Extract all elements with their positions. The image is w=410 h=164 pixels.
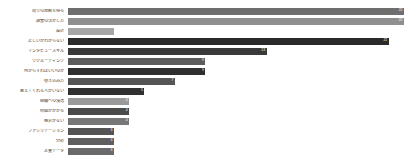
- bar-value-label: 5: [141, 89, 143, 92]
- bar-value-label: 7: [172, 79, 174, 82]
- chart-row: 教えてくれる人がいない5: [0, 86, 404, 96]
- bar[interactable]: 4: [68, 118, 129, 125]
- bar-value-label: 4: [126, 119, 128, 122]
- category-label: 時間がかかる: [0, 109, 68, 114]
- bar[interactable]: [68, 28, 114, 35]
- bar[interactable]: 3: [68, 138, 114, 145]
- chart-row: 組織への浸透4: [0, 96, 404, 106]
- bar-track: 4: [68, 116, 404, 126]
- horizontal-bar-chart: 周りの理解を得る22調査の活かし方22設計正しいかわからない21インタビュースキ…: [0, 0, 410, 164]
- chart-row: 何からすればいいのか9: [0, 66, 404, 76]
- category-label: 周りの理解を得る: [0, 9, 68, 14]
- bar-value-label: 21: [383, 39, 387, 42]
- bar[interactable]: 22: [68, 8, 404, 15]
- bar-value-label: 22: [399, 9, 403, 12]
- bar[interactable]: 22: [68, 18, 404, 25]
- chart-row: 分析3: [0, 136, 404, 146]
- chart-row: 機会がない4: [0, 116, 404, 126]
- category-label: リクルーティング: [0, 59, 68, 64]
- bar-track: 3: [68, 136, 404, 146]
- bar-track: 5: [68, 86, 404, 96]
- chart-row: 設計: [0, 26, 404, 36]
- bar[interactable]: 5: [68, 88, 144, 95]
- bar[interactable]: 3: [68, 128, 114, 135]
- category-label: 機会がない: [0, 119, 68, 124]
- category-label: 定量データ: [0, 149, 68, 154]
- bar[interactable]: 4: [68, 108, 129, 115]
- bar[interactable]: 3: [68, 148, 114, 155]
- bar-value-label: 13: [261, 49, 265, 52]
- bar-track: 22: [68, 16, 404, 26]
- category-label: 何からすればいいのか: [0, 69, 68, 74]
- bar-track: [68, 26, 404, 36]
- category-label: インタビュースキル: [0, 49, 68, 54]
- bar[interactable]: 21: [68, 38, 389, 45]
- category-label: 正しいかわからない: [0, 39, 68, 44]
- chart-row: 巻き込み方7: [0, 76, 404, 86]
- category-label: 分析: [0, 139, 68, 144]
- chart-row: 時間がかかる4: [0, 106, 404, 116]
- bar[interactable]: 7: [68, 78, 175, 85]
- category-label: 設計: [0, 29, 68, 34]
- chart-row: 周りの理解を得る22: [0, 6, 404, 16]
- bar[interactable]: 9: [68, 68, 205, 75]
- bar-track: 21: [68, 36, 404, 46]
- chart-row: リクルーティング9: [0, 56, 404, 66]
- bar-track: 22: [68, 6, 404, 16]
- bar-value-label: 3: [110, 139, 112, 142]
- bar-value-label: 4: [126, 99, 128, 102]
- bar-track: 3: [68, 146, 404, 156]
- chart-row: 正しいかわからない21: [0, 36, 404, 46]
- bar-track: 3: [68, 126, 404, 136]
- bar-value-label: 3: [110, 129, 112, 132]
- category-label: 調査の活かし方: [0, 19, 68, 24]
- chart-row: 調査の活かし方22: [0, 16, 404, 26]
- bar[interactable]: 13: [68, 48, 267, 55]
- bar-track: 7: [68, 76, 404, 86]
- category-label: 組織への浸透: [0, 99, 68, 104]
- bar-value-label: 22: [399, 19, 403, 22]
- bar-value-label: 4: [126, 109, 128, 112]
- bar-track: 9: [68, 66, 404, 76]
- chart-rows: 周りの理解を得る22調査の活かし方22設計正しいかわからない21インタビュースキ…: [0, 6, 404, 156]
- category-label: 教えてくれる人がいない: [0, 89, 68, 94]
- bar[interactable]: 4: [68, 98, 129, 105]
- bar-track: 4: [68, 96, 404, 106]
- bar-value-label: 9: [202, 69, 204, 72]
- bar[interactable]: 9: [68, 58, 205, 65]
- chart-row: 定量データ3: [0, 146, 404, 156]
- chart-row: ファシリテーション3: [0, 126, 404, 136]
- bar-value-label: 3: [110, 149, 112, 152]
- bar-track: 9: [68, 56, 404, 66]
- bar-value-label: 9: [202, 59, 204, 62]
- category-label: 巻き込み方: [0, 79, 68, 84]
- category-label: ファシリテーション: [0, 129, 68, 134]
- chart-row: インタビュースキル13: [0, 46, 404, 56]
- bar-track: 4: [68, 106, 404, 116]
- bar-track: 13: [68, 46, 404, 56]
